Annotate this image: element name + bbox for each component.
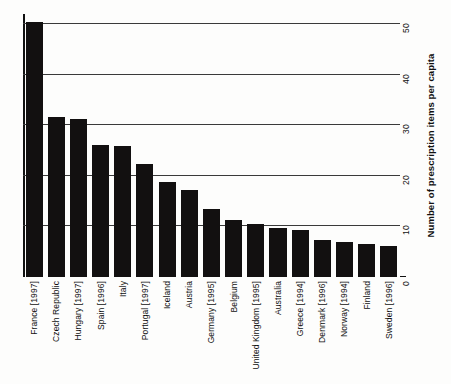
x-label-cell: Germany [1995] <box>200 279 222 379</box>
y-tick-label-40: 40 <box>401 68 411 84</box>
x-label-cell: Spain [1996] <box>90 279 112 379</box>
x-label-cell: Denmark [1996] <box>311 279 333 379</box>
y-tick-label-10: 10 <box>401 219 411 235</box>
x-label-cell: Iceland <box>156 279 178 379</box>
bar[interactable] <box>159 182 176 277</box>
x-label-cell: Greece [1994] <box>289 279 311 379</box>
bar-cell <box>112 14 134 277</box>
x-tick-label: Australia <box>273 281 283 315</box>
x-label-cell: Hungary [1997] <box>67 279 89 379</box>
bar[interactable] <box>26 22 43 277</box>
x-tick-label: Denmark [1996] <box>317 281 327 343</box>
bar[interactable] <box>181 190 198 277</box>
x-label-cell: Sweden [1996] <box>378 279 400 379</box>
y-tick-label-30: 30 <box>401 118 411 134</box>
bar[interactable] <box>225 220 242 277</box>
bar-cell <box>134 14 156 277</box>
x-label-cell: Norway [1994] <box>333 279 355 379</box>
bar-cell <box>45 14 67 277</box>
bar-cell <box>378 14 400 277</box>
x-tick-label: Spain [1996] <box>96 281 106 330</box>
bar-series <box>23 14 400 277</box>
bar[interactable] <box>358 244 375 277</box>
bar-cell <box>267 14 289 277</box>
bar-cell <box>289 14 311 277</box>
y-axis-tick-labels: 01020304050 <box>406 14 422 277</box>
bar-cell <box>311 14 333 277</box>
x-label-cell: Portugal [1997] <box>134 279 156 379</box>
bar[interactable] <box>70 119 87 277</box>
x-label-cell: Italy <box>112 279 134 379</box>
x-tick-label: Greece [1994] <box>295 281 305 336</box>
bar-cell <box>223 14 245 277</box>
bar[interactable] <box>48 117 65 277</box>
bar-chart: 01020304050 Number of prescription items… <box>0 0 451 384</box>
y-tick-label-20: 20 <box>401 169 411 185</box>
bar[interactable] <box>336 242 353 277</box>
bar[interactable] <box>380 246 397 277</box>
bar-cell <box>23 14 45 277</box>
x-tick-label: Germany [1995] <box>206 281 216 343</box>
x-tick-label: Hungary [1997] <box>73 281 83 341</box>
bar[interactable] <box>247 224 264 277</box>
x-tick-label: Iceland <box>162 281 172 309</box>
bar[interactable] <box>92 145 109 278</box>
x-tick-label: Austria <box>184 281 194 308</box>
bar-cell <box>333 14 355 277</box>
x-axis-category-labels: France [1997]Czech RepublicHungary [1997… <box>23 279 400 379</box>
bar-cell <box>156 14 178 277</box>
x-tick-label: Belgium <box>229 281 239 312</box>
bar-cell <box>356 14 378 277</box>
x-tick-label: Italy <box>118 281 128 297</box>
x-tick-label: Finland <box>362 281 372 310</box>
bar[interactable] <box>292 230 309 277</box>
x-tick-label: Norway [1994] <box>339 281 349 337</box>
x-label-cell: France [1997] <box>23 279 45 379</box>
bar-cell <box>67 14 89 277</box>
bar-cell <box>90 14 112 277</box>
bar-cell <box>178 14 200 277</box>
y-axis-title-text: Number of prescription items per capita <box>426 54 437 238</box>
x-label-cell: Australia <box>267 279 289 379</box>
bar[interactable] <box>269 228 286 277</box>
x-label-cell: Austria <box>178 279 200 379</box>
y-axis-title: Number of prescription items per capita <box>424 14 438 277</box>
bar-cell <box>245 14 267 277</box>
bar[interactable] <box>136 164 153 277</box>
x-tick-label: France [1997] <box>29 281 39 335</box>
bar[interactable] <box>203 209 220 277</box>
x-label-cell: United Kingdom [1995] <box>245 279 267 379</box>
x-tick-label: Portugal [1997] <box>140 281 150 340</box>
x-label-cell: Belgium <box>223 279 245 379</box>
bar-cell <box>200 14 222 277</box>
x-label-cell: Czech Republic <box>45 279 67 379</box>
x-tick-label: Czech Republic <box>51 281 61 342</box>
y-tick-label-0: 0 <box>401 270 411 286</box>
y-tick-label-50: 50 <box>401 17 411 33</box>
x-tick-label: United Kingdom [1995] <box>251 281 261 370</box>
bar[interactable] <box>114 146 131 278</box>
plot-area <box>23 14 400 277</box>
x-tick-label: Sweden [1996] <box>384 281 394 339</box>
x-label-cell: Finland <box>356 279 378 379</box>
bar[interactable] <box>314 240 331 277</box>
